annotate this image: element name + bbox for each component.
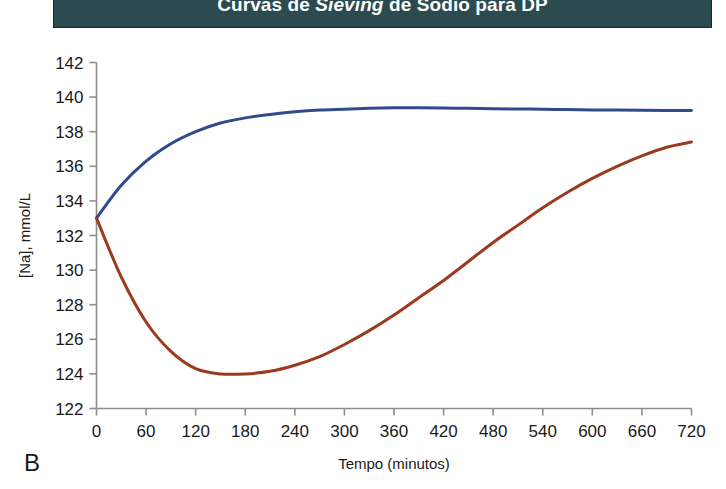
x-axis-tick-labels: 060120180240300360420480540600660720	[92, 422, 706, 441]
y-tick-label: 130	[55, 261, 83, 280]
chart-title-italic: Sieving	[315, 0, 383, 15]
y-tick-label: 142	[55, 54, 83, 73]
y-tick-label: 126	[55, 330, 83, 349]
line-chart: 122124126128130132134136138140142 060120…	[0, 28, 726, 489]
chart-title-banner: Curvas de Sieving de Sodio para DP	[53, 0, 712, 28]
y-tick-label: 138	[55, 123, 83, 142]
y-axis-title: [Na], mmol/L	[16, 193, 33, 278]
x-tick-label: 600	[578, 422, 606, 441]
y-tick-label: 132	[55, 227, 83, 246]
chart-title-prefix: Curvas de	[217, 0, 315, 15]
series-group	[97, 108, 692, 375]
y-tick-label: 136	[55, 157, 83, 176]
x-tick-label: 300	[330, 422, 358, 441]
y-tick-label: 124	[55, 365, 83, 384]
figure-panel-b: 122124126128130132134136138140142 060120…	[0, 28, 726, 489]
x-tick-label: 0	[92, 422, 101, 441]
x-tick-label: 240	[281, 422, 309, 441]
chart-title: Curvas de Sieving de Sodio para DP	[217, 0, 548, 27]
x-tick-label: 120	[181, 422, 209, 441]
x-tick-label: 360	[380, 422, 408, 441]
x-tick-label: 480	[479, 422, 507, 441]
series-line-blue	[97, 108, 692, 218]
x-axis-title: Tempo (minutos)	[338, 455, 450, 472]
y-tick-label: 140	[55, 88, 83, 107]
x-tick-label: 60	[137, 422, 156, 441]
y-tick-label: 122	[55, 400, 83, 419]
x-tick-label: 540	[529, 422, 557, 441]
x-tick-label: 180	[231, 422, 259, 441]
panel-label: B	[24, 449, 40, 476]
series-line-red	[97, 142, 692, 374]
y-axis-tick-labels: 122124126128130132134136138140142	[55, 54, 83, 419]
y-tick-label: 134	[55, 192, 83, 211]
x-tick-label: 660	[628, 422, 656, 441]
y-axis-ticks	[90, 63, 97, 409]
x-tick-label: 720	[677, 422, 705, 441]
x-axis-ticks	[97, 409, 692, 416]
chart-title-suffix: de Sodio para DP	[384, 0, 548, 15]
y-tick-label: 128	[55, 296, 83, 315]
x-tick-label: 420	[429, 422, 457, 441]
axes: 122124126128130132134136138140142 060120…	[55, 54, 706, 441]
